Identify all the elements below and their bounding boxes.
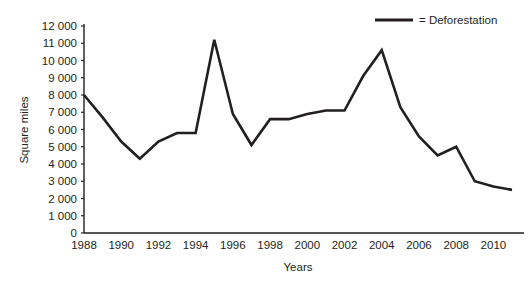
x-tick-label: 2006 bbox=[406, 239, 432, 251]
x-axis-tick-labels: 1988199019921994199619982000200220042006… bbox=[71, 239, 506, 251]
chart-canvas: 01 0002 0003 0004 0005 0006 0007 0008 00… bbox=[0, 0, 530, 284]
deforestation-line-chart: 01 0002 0003 0004 0005 0006 0007 0008 00… bbox=[0, 0, 530, 284]
x-tick-label: 1998 bbox=[257, 239, 283, 251]
y-tick-label: 3 000 bbox=[48, 175, 77, 187]
y-tick-label: 12 000 bbox=[42, 20, 77, 32]
y-axis-tick-labels: 01 0002 0003 0004 0005 0006 0007 0008 00… bbox=[42, 20, 77, 239]
y-tick-label: 5 000 bbox=[48, 141, 77, 153]
y-tick-label: 9 000 bbox=[48, 72, 77, 84]
x-tick-label: 1988 bbox=[71, 239, 97, 251]
deforestation-series-line bbox=[84, 40, 512, 190]
y-tick-label: 4 000 bbox=[48, 158, 77, 170]
x-tick-label: 1990 bbox=[108, 239, 134, 251]
x-tick-label: 2008 bbox=[443, 239, 469, 251]
x-tick-label: 2000 bbox=[295, 239, 321, 251]
y-tick-label: 7 000 bbox=[48, 106, 77, 118]
y-tick-label: 1 000 bbox=[48, 210, 77, 222]
x-axis-title: Years bbox=[284, 261, 313, 273]
x-tick-label: 2004 bbox=[369, 239, 395, 251]
y-tick-label: 2 000 bbox=[48, 193, 77, 205]
y-tick-label: 10 000 bbox=[42, 55, 77, 67]
legend-label-deforestation: = Deforestation bbox=[419, 14, 497, 26]
y-tick-label: 6 000 bbox=[48, 124, 77, 136]
y-tick-label: 0 bbox=[71, 227, 77, 239]
x-tick-label: 2010 bbox=[481, 239, 507, 251]
y-tick-label: 8 000 bbox=[48, 89, 77, 101]
x-tick-label: 2002 bbox=[332, 239, 358, 251]
x-tick-label: 1992 bbox=[146, 239, 172, 251]
x-tick-label: 1996 bbox=[220, 239, 246, 251]
y-tick-label: 11 000 bbox=[43, 37, 77, 49]
y-axis-title: Square miles bbox=[18, 96, 30, 163]
x-tick-label: 1994 bbox=[183, 239, 209, 251]
